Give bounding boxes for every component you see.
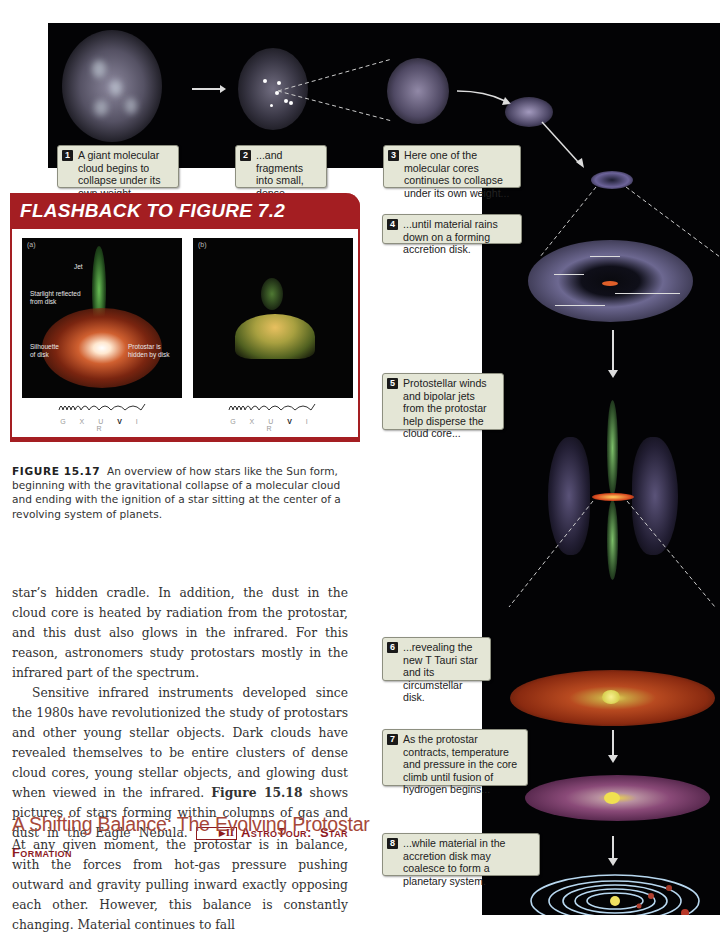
arrow-down-line [612,730,614,755]
step-number-badge: 2 [240,150,251,161]
arrow-head-icon [220,85,226,93]
dense-core-dot [263,79,267,83]
planetary-system-image [525,873,705,915]
cloud-core-blob [110,80,122,96]
arrow-down-icon [608,755,618,763]
protostar-core [602,281,618,286]
paragraph-3: At any given moment, the protostar is in… [12,835,348,935]
arrow-down-icon [608,858,618,866]
figure-reference-link[interactable]: Figure 15.18 [211,785,302,800]
paragraph-1: star’s hidden cradle. In addition, the d… [12,583,348,683]
starlight-annotation: Starlight reflected from disk [30,290,90,305]
flashback-title: FLASHBACK TO FIGURE 7.2 [10,193,360,229]
cloud-core-blob [94,100,108,116]
rotation-arrow-icon [615,293,680,294]
step-number-badge: 6 [387,642,398,653]
flashback-panel-b: (b) [193,238,353,398]
step-number-badge: 3 [388,150,399,161]
collapsing-core-image [387,58,449,124]
rotation-arrow-icon [590,256,620,257]
arrow-right-icon [192,88,222,90]
cloud-core-blob [92,60,106,78]
section-heading: A Shifting Balance: The Evolving Protost… [12,813,370,836]
callout-step-1: 1 A giant molecular cloud begins to coll… [57,145,179,188]
zoom-lines-2-3 [270,55,400,125]
paragraph-2-text: Sensitive infrared instruments developed… [12,686,348,800]
callout-step-5: 5 Protostellar winds and bipolar jets fr… [382,373,504,430]
spectrum-indicator-a: G X U V I R [52,400,152,424]
callout-step-2: 2 ...and fragments into small, dense mol… [235,145,327,188]
jet-annotation: Jet [74,263,83,271]
callout-step-6: 6 ...revealing the new T Tauri star and … [382,637,491,681]
rotation-arrow-icon [555,305,605,306]
arrow-down-line [612,330,614,370]
callout-step-4: 4 ...until material rains down on a form… [382,214,522,244]
figure-caption: FIGURE 15.17 An overview of how stars li… [12,464,352,521]
callout-text: Protostellar winds and bipolar jets from… [403,377,487,439]
callout-step-8: 8 ...while material in the accretion dis… [382,833,540,876]
figure-label: FIGURE 15.17 [12,465,100,477]
callout-text: Here one of the molecular cores continue… [404,149,509,199]
t-tauri-star [602,690,620,704]
step-number-badge: 4 [387,219,398,230]
spectrum-bands: G X U V I R [52,418,152,432]
callout-step-7: 7 As the protostar contracts, temperatur… [382,729,528,786]
callout-text: ...revealing the new T Tauri star and it… [403,641,478,703]
step-number-badge: 1 [62,150,73,161]
faint-jet-image [261,278,283,310]
step-number-badge: 7 [387,734,398,745]
panel-b-label: (b) [198,241,207,248]
body-text-block-2: At any given moment, the protostar is in… [12,835,348,935]
arrow-down-line [612,836,614,858]
callout-text: A giant molecular cloud begins to collap… [78,149,160,199]
cloud-core-blob [125,98,137,114]
arrow-down-icon [608,370,618,378]
spectrum-bands: G X U V I R [222,418,322,432]
protostar-annotation: Protostar is hidden by disk [128,343,178,358]
diagonal-arrow-icon [540,120,590,170]
step-number-badge: 5 [387,378,398,389]
zoom-lines-5-6 [505,495,722,610]
panel-a-label: (a) [27,241,36,248]
spectrum-indicator-b: G X U V I R [222,400,322,424]
step-number-badge: 8 [387,838,398,849]
flashback-bottom-rule [10,437,360,442]
callout-step-3: 3 Here one of the molecular cores contin… [383,145,521,188]
flashback-panel-a: (a) Jet Starlight reflected from disk Si… [22,238,182,398]
ignited-star [604,792,620,804]
jet-upper [607,400,618,496]
infrared-nebula-image [235,314,315,359]
waveform-icon [227,402,317,414]
silhouette-annotation: Silhouette of disk [30,343,66,358]
rotation-arrow-icon [554,274,584,275]
waveform-icon [57,402,147,414]
